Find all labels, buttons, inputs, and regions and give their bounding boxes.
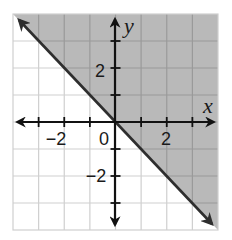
y-axis-label: y — [122, 13, 134, 38]
x-tick-label-2: 2 — [161, 129, 171, 149]
origin-label: 0 — [99, 129, 109, 149]
coordinate-plane-graph: −2 0 2 2 −2 x y — [0, 0, 232, 240]
y-tick-label-2: 2 — [95, 61, 105, 81]
y-tick-label-neg2: −2 — [86, 166, 107, 186]
x-tick-label-neg2: −2 — [46, 129, 67, 149]
x-axis-label: x — [202, 93, 213, 118]
